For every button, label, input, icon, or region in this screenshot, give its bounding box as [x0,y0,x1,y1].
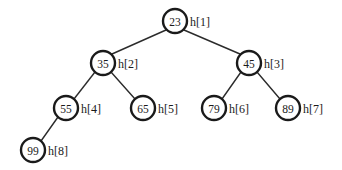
node-value-23: 23 [169,16,181,28]
tree-node-55[interactable]: 55h[4] [54,96,101,120]
tree-node-45[interactable]: 45h[3] [237,51,284,75]
tree-node-35[interactable]: 35h[2] [91,51,138,75]
node-label-55: h[4] [81,102,101,116]
node-value-45: 45 [243,58,255,70]
node-label-35: h[2] [118,57,138,71]
tree-edge-n1-n2 [112,30,166,54]
tree-edge-n4-n8 [41,117,58,141]
tree-node-23[interactable]: 23h[1] [163,9,210,33]
binary-tree-figure: 23h[1]35h[2]45h[3]55h[4]65h[5]79h[6]89h[… [0,0,342,170]
node-value-79: 79 [208,103,220,115]
node-label-45: h[3] [264,57,284,71]
node-label-23: h[1] [190,15,210,29]
tree-edge-n1-n3 [184,30,240,54]
tree-edge-n2-n5 [111,72,135,99]
tree-node-79[interactable]: 79h[6] [202,96,249,120]
node-value-55: 55 [60,103,72,115]
node-label-99: h[8] [48,144,68,158]
tree-edge-n3-n7 [257,72,280,99]
tree-canvas: 23h[1]35h[2]45h[3]55h[4]65h[5]79h[6]89h[… [0,0,342,170]
node-label-65: h[5] [158,102,178,116]
node-label-79: h[6] [229,102,249,116]
node-value-99: 99 [27,145,39,157]
node-label-89: h[7] [303,102,323,116]
tree-edges [41,30,280,141]
tree-node-99[interactable]: 99h[8] [21,138,68,162]
tree-node-65[interactable]: 65h[5] [131,96,178,120]
tree-node-89[interactable]: 89h[7] [276,96,323,120]
node-value-65: 65 [137,103,149,115]
tree-edge-n2-n4 [74,72,95,99]
tree-edge-n3-n6 [222,72,241,99]
tree-nodes: 23h[1]35h[2]45h[3]55h[4]65h[5]79h[6]89h[… [21,9,323,162]
node-value-89: 89 [282,103,294,115]
node-value-35: 35 [97,58,109,70]
